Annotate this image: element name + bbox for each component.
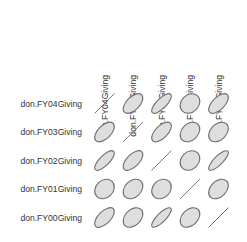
correlation-ellipse xyxy=(91,204,117,230)
correlation-ellipse xyxy=(91,175,119,203)
correlation-ellipse xyxy=(176,204,203,231)
correlation-ellipse xyxy=(148,175,176,203)
row-label: don.FY04Giving xyxy=(20,99,82,109)
row-label: don.FY00Giving xyxy=(20,213,82,223)
correlation-ellipse xyxy=(149,205,174,230)
diagonal-line xyxy=(152,151,172,171)
correlation-ellipse xyxy=(119,175,146,202)
diagonal-line xyxy=(180,179,200,199)
row-label: don.FY02Giving xyxy=(20,156,82,166)
correlation-ellipse xyxy=(176,118,203,145)
row-label: don.FY01Giving xyxy=(20,184,82,194)
correlation-ellipse xyxy=(205,118,232,145)
diagonal-line xyxy=(209,208,229,228)
correlation-ellipse xyxy=(120,147,146,173)
correlation-ellipse-plot: don.FY04Givingdon.FY03Givingdon.FY02Givi… xyxy=(0,0,247,242)
correlation-ellipse xyxy=(205,175,232,202)
correlation-ellipse xyxy=(206,148,231,173)
row-label: don.FY03Giving xyxy=(20,127,82,137)
correlation-ellipse xyxy=(119,204,146,231)
row-labels: don.FY04Givingdon.FY03Givingdon.FY02Givi… xyxy=(20,99,82,223)
correlation-ellipse xyxy=(176,90,204,118)
correlation-ellipse xyxy=(92,148,117,173)
correlation-ellipse xyxy=(176,147,204,175)
